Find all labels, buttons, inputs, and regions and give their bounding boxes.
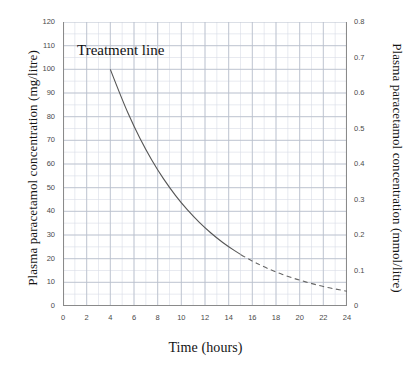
x-tick-label: 20 [290, 313, 310, 322]
y-tick-label-right: 0.6 [354, 88, 378, 97]
treatment-line-dashed [241, 254, 348, 291]
major-gridlines [63, 22, 347, 306]
x-tick-label: 8 [148, 313, 168, 322]
treatment-line-solid [110, 69, 240, 254]
x-tick-label: 24 [337, 313, 357, 322]
y-tick-label-right: 0.5 [354, 124, 378, 133]
x-tick-label: 6 [124, 313, 144, 322]
y-axis-title-right: Plasma paracetamol concentration (mmol/l… [389, 18, 405, 318]
x-tick-label: 2 [77, 313, 97, 322]
x-tick-label: 14 [219, 313, 239, 322]
y-tick-label-right: 0.8 [354, 17, 378, 26]
x-axis-title: Time (hours) [63, 340, 348, 356]
plot-canvas [63, 22, 347, 306]
y-tick-label-right: 0.3 [354, 195, 378, 204]
x-tick-label: 16 [242, 313, 262, 322]
plot-area [63, 22, 347, 306]
y-axis-title-left: Plasma paracetamol concentration (mg/lit… [25, 18, 41, 318]
x-tick-label: 4 [100, 313, 120, 322]
y-tick-label-right: 0.1 [354, 266, 378, 275]
y-tick-label-right: 0.2 [354, 230, 378, 239]
x-tick-label: 22 [313, 313, 333, 322]
x-tick-label: 12 [195, 313, 215, 322]
x-tick-label: 18 [266, 313, 286, 322]
y-tick-label-right: 0 [354, 301, 378, 310]
x-tick-label: 0 [53, 313, 73, 322]
y-tick-label-right: 0.7 [354, 53, 378, 62]
x-tick-label: 10 [171, 313, 191, 322]
chart-figure: Plasma paracetamol concentration (mg/lit… [0, 0, 416, 378]
treatment-line-annotation: Treatment line [77, 42, 164, 59]
y-tick-label-right: 0.4 [354, 159, 378, 168]
